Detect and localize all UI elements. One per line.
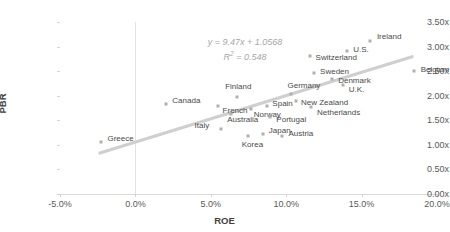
data-point-marker	[246, 134, 249, 137]
data-point-marker	[331, 78, 334, 81]
regression-annotation: y = 9.47x + 1.0568 R2 = 0.548	[186, 36, 304, 64]
y-tick	[57, 71, 60, 72]
data-point-marker	[412, 70, 415, 73]
data-point-label: Korea	[242, 141, 263, 149]
data-point-label: Belgium	[421, 66, 450, 74]
data-point-marker	[165, 102, 168, 105]
x-tick	[60, 194, 61, 197]
data-point-label: Spain	[272, 100, 292, 108]
x-tick-label: 10.0%	[273, 200, 299, 209]
data-point-label: French	[223, 107, 248, 115]
data-point-label: Netherlands	[317, 109, 360, 117]
data-point-marker	[341, 84, 344, 87]
data-point-label: Germany	[287, 82, 320, 90]
data-point-marker	[249, 108, 252, 111]
data-point-label: Switzerland	[316, 54, 357, 62]
data-point-label: Japan	[269, 127, 291, 135]
y-tick	[57, 120, 60, 121]
data-point-label: Finland	[225, 83, 251, 91]
data-point-label: Ireland	[377, 33, 401, 41]
data-point-marker	[100, 140, 103, 143]
x-tick-label: 20.0%	[424, 200, 450, 209]
x-tick-label: 0.0%	[125, 200, 146, 209]
data-point-marker	[290, 92, 293, 95]
regression-r-squared: R2 = 0.548	[186, 49, 304, 64]
y-tick-label: 2.00x	[395, 91, 449, 100]
y-tick-label: 1.00x	[395, 140, 449, 149]
x-tick-label: 5.0%	[201, 200, 222, 209]
data-point-marker	[266, 104, 269, 107]
data-point-label: Austria	[288, 130, 313, 138]
data-point-marker	[346, 49, 349, 52]
data-point-marker	[281, 134, 284, 137]
x-axis-line	[60, 194, 437, 195]
x-tick	[135, 194, 136, 197]
data-point-marker	[310, 105, 313, 108]
data-point-marker	[313, 72, 316, 75]
y-tick-label: 3.00x	[395, 42, 449, 51]
data-point-marker	[269, 116, 272, 119]
data-point-marker	[219, 128, 222, 131]
y-axis-title: PBR	[0, 93, 8, 113]
y-tick-label: 3.50x	[395, 18, 449, 27]
data-point-label: Sweden	[320, 68, 349, 76]
y-tick-label: 0.00x	[395, 190, 449, 199]
y-tick	[57, 96, 60, 97]
y-tick	[57, 47, 60, 48]
data-point-label: U.S.	[353, 46, 369, 54]
data-point-label: U.K.	[349, 86, 365, 94]
data-point-marker	[308, 55, 311, 58]
y-tick	[57, 22, 60, 23]
x-axis-title: ROE	[0, 215, 449, 226]
data-point-marker	[236, 95, 239, 98]
y-tick	[57, 169, 60, 170]
data-point-label: Italy	[195, 122, 210, 130]
y-tick-label: 0.50x	[395, 165, 449, 174]
regression-equation: y = 9.47x + 1.0568	[186, 36, 304, 49]
x-tick	[286, 194, 287, 197]
x-tick	[362, 194, 363, 197]
x-tick-label: 15.0%	[349, 200, 375, 209]
data-point-label: Portugal	[276, 116, 306, 124]
data-point-marker	[216, 105, 219, 108]
y-tick-label: 1.50x	[395, 116, 449, 125]
x-tick	[211, 194, 212, 197]
data-point-marker	[261, 132, 264, 135]
data-point-marker	[368, 39, 371, 42]
y-tick	[57, 145, 60, 146]
y-tick	[57, 194, 60, 195]
x-tick-label: -5.0%	[48, 200, 72, 209]
data-point-label: Canada	[172, 97, 200, 105]
data-point-label: New Zealand	[301, 99, 348, 107]
data-point-marker	[295, 100, 298, 103]
y-axis-zero-line	[135, 22, 136, 194]
data-point-label: Greece	[107, 135, 133, 143]
